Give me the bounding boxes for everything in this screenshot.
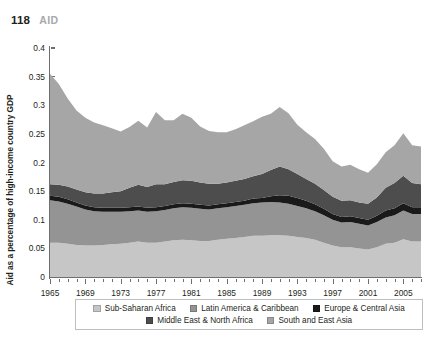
x-tick-mark [395,279,396,282]
legend-label: Europe & Central Asia [324,304,405,313]
x-tick-label: 1973 [111,288,130,298]
x-tick-mark [333,279,334,284]
y-tick-label: 0.15 [11,186,45,196]
legend-row-1: Sub-Saharan AfricaLatin America & Caribb… [81,304,417,313]
x-tick-mark [359,279,360,282]
legend-label: Latin America & Caribbean [201,304,298,313]
stacked-area-svg [50,48,421,277]
x-tick-mark [183,279,184,282]
x-tick-label: 1977 [147,288,166,298]
x-tick-mark [262,279,263,284]
x-tick-mark [112,279,113,282]
x-tick-mark [165,279,166,282]
legend-color-swatch [146,317,154,325]
legend-label: Middle East & North Africa [157,316,253,325]
x-tick-mark [306,279,307,282]
legend-color-swatch [267,317,275,325]
x-tick-label: 2001 [359,288,378,298]
x-tick-mark [85,279,86,284]
legend-item[interactable]: South and East Asia [267,316,352,325]
x-tick-mark [121,279,122,284]
x-tick-mark [289,279,290,282]
x-tick-mark [280,279,281,282]
x-tick-mark [227,279,228,284]
legend-color-swatch [93,305,101,313]
x-tick-mark [350,279,351,282]
x-tick-mark [77,279,78,282]
x-tick-label: 1969 [76,288,95,298]
x-tick-mark [218,279,219,282]
plot-area [50,48,421,277]
chart-legend: Sub-Saharan AfricaLatin America & Caribb… [75,299,423,330]
legend-color-swatch [190,305,198,313]
x-tick-mark [174,279,175,282]
x-tick-label: 1985 [217,288,236,298]
x-tick-mark [342,279,343,282]
y-axis-tick-labels: 00.050.10.150.20.250.30.350.4 [7,36,45,296]
x-tick-mark [191,279,192,284]
x-tick-mark [200,279,201,282]
x-tick-mark [68,279,69,282]
page-section-title: AID [39,14,58,26]
x-tick-mark [138,279,139,282]
legend-label: South and East Asia [278,316,352,325]
y-tick-label: 0.25 [11,129,45,139]
x-tick-label: 1997 [323,288,342,298]
x-tick-mark [253,279,254,282]
x-tick-mark [377,279,378,282]
x-tick-mark [209,279,210,282]
x-tick-mark [130,279,131,282]
x-tick-mark [271,279,272,282]
page-header: 118 AID [11,14,58,26]
x-tick-label: 1989 [253,288,272,298]
legend-item[interactable]: Latin America & Caribbean [190,304,299,313]
x-tick-mark [421,279,422,282]
legend-label: Sub-Saharan Africa [105,304,176,313]
legend-row-2: Middle East & North AfricaSouth and East… [81,316,417,325]
x-tick-mark [50,279,51,284]
x-tick-label: 1965 [41,288,60,298]
legend-item[interactable]: Europe & Central Asia [313,304,405,313]
x-tick-mark [59,279,60,282]
x-axis-tick-labels: 1965196919731977198119851989199319972001… [0,279,438,299]
x-tick-mark [403,279,404,284]
x-tick-mark [156,279,157,284]
y-tick-label: 0.3 [11,100,45,110]
x-tick-label: 1981 [182,288,201,298]
y-tick-label: 0.4 [11,43,45,53]
y-tick-label: 0.1 [11,215,45,225]
y-tick-label: 0.2 [11,158,45,168]
x-tick-mark [324,279,325,282]
x-tick-mark [103,279,104,282]
figure-stacked-area-chart: Aid as a percentage of high-income count… [0,36,438,341]
x-tick-mark [297,279,298,284]
y-tick-label: 0.05 [11,243,45,253]
x-tick-mark [386,279,387,282]
x-tick-mark [412,279,413,282]
x-tick-mark [315,279,316,282]
x-tick-mark [94,279,95,282]
legend-item[interactable]: Sub-Saharan Africa [93,304,176,313]
x-tick-mark [236,279,237,282]
x-tick-label: 1993 [288,288,307,298]
x-tick-mark [244,279,245,282]
legend-item[interactable]: Middle East & North Africa [146,316,253,325]
legend-color-swatch [313,305,321,313]
y-tick-label: 0.35 [11,72,45,82]
x-tick-mark [368,279,369,284]
x-tick-mark [147,279,148,282]
x-tick-label: 2005 [394,288,413,298]
page-number: 118 [11,14,30,26]
